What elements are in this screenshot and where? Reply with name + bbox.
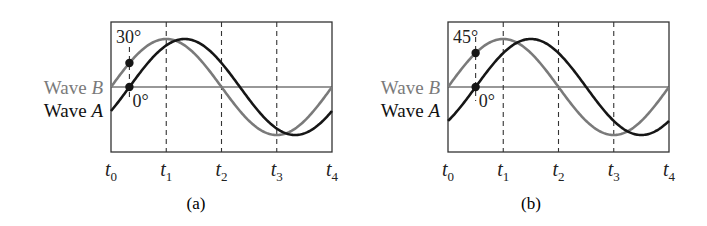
- wave-a-angle-label: 0°: [479, 91, 495, 111]
- panel-a: 30° 0° Wave B Wave A t0t1t2t3t4 (a): [44, 22, 339, 213]
- wave-a-angle-label: 0°: [132, 91, 148, 111]
- wave-b-marker-dot: [125, 59, 133, 67]
- tick-label-t1: t1: [497, 158, 509, 184]
- time-tick-labels: t0t1t2t3t4: [442, 158, 676, 184]
- panel-caption: (b): [521, 194, 541, 213]
- wave-a-label: Wave A: [44, 100, 104, 121]
- panel-b: 45° 0° Wave B Wave A t0t1t2t3t4 (b): [381, 22, 676, 213]
- tick-label-t0: t0: [105, 158, 117, 184]
- time-tick-labels: t0t1t2t3t4: [105, 158, 339, 184]
- wave-b-marker-dot: [471, 49, 479, 57]
- wave-a-label: Wave A: [381, 100, 441, 121]
- tick-label-t3: t3: [608, 158, 620, 184]
- tick-label-t4: t4: [663, 158, 676, 184]
- tick-label-t3: t3: [271, 158, 283, 184]
- wave-b-angle-label: 30°: [116, 27, 141, 47]
- tick-label-t4: t4: [326, 158, 339, 184]
- tick-label-t1: t1: [160, 158, 172, 184]
- wave-b-label: Wave B: [44, 77, 104, 98]
- wave-b-label: Wave B: [381, 77, 441, 98]
- tick-label-t2: t2: [553, 158, 565, 184]
- panel-caption: (a): [187, 194, 206, 213]
- wave-b-angle-label: 45°: [453, 27, 478, 47]
- phase-shift-figure: 30° 0° Wave B Wave A t0t1t2t3t4 (a) 45° …: [0, 0, 707, 226]
- wave-a-marker-dot: [471, 83, 479, 91]
- tick-label-t0: t0: [442, 158, 454, 184]
- wave-a-marker-dot: [125, 83, 133, 91]
- tick-label-t2: t2: [216, 158, 228, 184]
